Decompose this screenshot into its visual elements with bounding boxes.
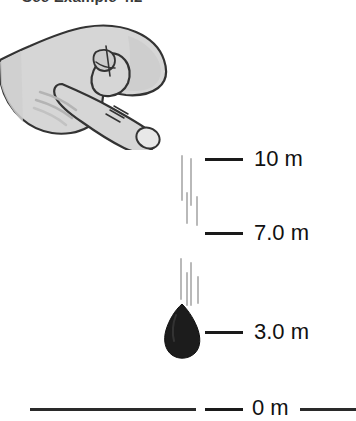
free-fall-diagram: See Example 4.2 — [0, 0, 356, 421]
tick-label-3m: 3.0 m — [254, 321, 309, 343]
motion-line-1 — [181, 155, 183, 201]
tick-dash-3m — [205, 331, 243, 334]
ground-baseline: 0 m — [0, 396, 356, 421]
teardrop-icon — [160, 303, 208, 361]
motion-line-7 — [186, 272, 188, 306]
tick-row-7m: 7.0 m — [205, 220, 309, 246]
motion-line-8 — [197, 276, 199, 304]
motion-line-6 — [190, 262, 192, 306]
tick-label-10m: 10 m — [254, 148, 303, 170]
ground-line-left — [30, 408, 196, 411]
tick-row-10m: 10 m — [205, 146, 303, 172]
motion-line-4 — [196, 196, 198, 226]
figure-caption: See Example 4.2 — [22, 0, 143, 5]
tick-row-3m: 3.0 m — [205, 319, 309, 345]
tick-dash-0m — [205, 408, 243, 411]
tick-dash-7m — [205, 232, 243, 235]
ground-line-right — [300, 408, 356, 411]
falling-object — [160, 303, 208, 361]
hand-icon — [0, 18, 200, 150]
motion-line-5 — [180, 258, 182, 300]
tick-label-7m: 7.0 m — [254, 222, 309, 244]
tick-label-0m: 0 m — [252, 397, 289, 419]
tick-dash-10m — [205, 158, 243, 161]
motion-line-2 — [190, 158, 192, 206]
motion-line-3 — [186, 192, 188, 224]
hand-illustration — [0, 18, 200, 150]
